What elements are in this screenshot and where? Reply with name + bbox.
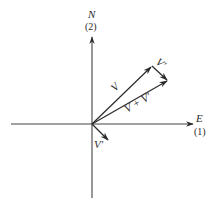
vector-addition-diagram: N (2) E (1) V V' V + V' V' [0,0,217,208]
north-axis-label: N [87,8,96,20]
vector-v-label: V [108,79,122,93]
north-axis-index: (2) [85,21,97,33]
vector-v-prime-label: V' [94,138,104,150]
vector-v-plus-v-prime-label: V + V' [122,90,153,115]
east-axis-label: E [195,112,203,124]
vector-v-prime-translated-label: V' [154,55,169,70]
east-axis-index: (1) [194,126,206,138]
